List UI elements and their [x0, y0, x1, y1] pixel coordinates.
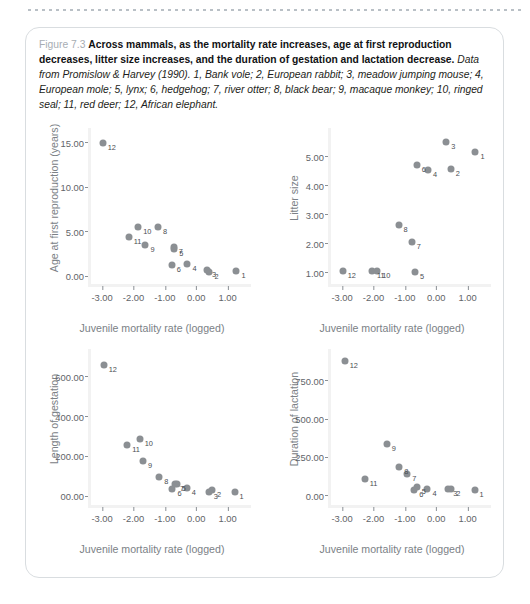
top-dotted-rule [28, 9, 522, 11]
data-point [139, 457, 146, 464]
data-point-label: 3 [451, 142, 455, 151]
x-axis-tick-label: 0.00 [187, 292, 205, 303]
data-point-label: 9 [148, 460, 152, 469]
x-axis-tick-label: 1.00 [218, 513, 236, 524]
data-point [136, 436, 143, 443]
y-axis-tick-label: 1.00 [306, 267, 324, 278]
y-axis-line [328, 128, 331, 284]
y-axis-tick-label: 10.00 [61, 182, 84, 193]
data-point-label: 7 [417, 241, 421, 250]
data-point-label: 3 [453, 488, 457, 497]
plot-grid: Age at first reproduction (years) 0.005.… [26, 124, 503, 576]
data-point [124, 441, 131, 448]
y-axis-tick-label: 4.00 [306, 180, 324, 191]
data-point [99, 139, 106, 146]
data-point [413, 161, 420, 168]
x-axis-tick-label: -2.00 [363, 292, 384, 303]
data-point-label: 8 [163, 226, 167, 235]
data-point-label: 11 [370, 478, 378, 487]
data-point-label: 12 [109, 364, 117, 373]
y-axis-tick-label: 600.00 [55, 371, 84, 382]
plot-area: 0.00250.00500.00750.00-3.00-2.00-1.000.0… [328, 353, 488, 505]
panel-litter-size: Litter size 1.002.003.004.005.00-3.00-2.… [266, 124, 504, 350]
data-point [142, 241, 149, 248]
x-axis-tick-label: -2.00 [123, 292, 144, 303]
data-point-label: 7 [412, 473, 416, 482]
data-point [408, 238, 415, 245]
x-axis-line [88, 284, 251, 287]
y-axis-tick-label: 250.00 [295, 452, 324, 463]
data-point [171, 481, 178, 488]
data-point-label: 9 [392, 443, 396, 452]
data-point [168, 261, 175, 268]
x-axis-tick-label: 0.00 [187, 513, 205, 524]
data-point-label: 6 [422, 164, 426, 173]
plot-area: 1.002.003.004.005.00-3.00-2.00-1.000.001… [328, 132, 488, 284]
data-point [396, 464, 403, 471]
y-axis-title: Litter size [288, 108, 300, 288]
y-axis-tick-label: 2.00 [306, 238, 324, 249]
data-point-label: 3 [214, 492, 218, 501]
data-point-label: 4 [192, 264, 196, 273]
data-point [135, 224, 142, 231]
data-point [125, 234, 132, 241]
data-point-label: 8 [404, 225, 408, 234]
data-point [154, 223, 161, 230]
data-point [395, 222, 402, 229]
data-point [447, 165, 454, 172]
x-axis-tick-label: -3.00 [91, 292, 112, 303]
data-point-label: 11 [377, 270, 385, 279]
data-point-label: 8 [404, 467, 408, 476]
data-point-label: 1 [480, 489, 484, 498]
data-point-label: 10 [143, 227, 151, 236]
y-axis-tick-label: 0.00 [66, 271, 84, 282]
y-axis-title: Age at first reproduction (years) [48, 108, 60, 288]
figure-headline: Across mammals, as the mortality rate in… [39, 39, 454, 65]
data-point-label: 7 [180, 484, 184, 493]
y-axis-tick-label: 500.00 [295, 414, 324, 425]
data-point [443, 139, 450, 146]
data-point [100, 361, 107, 368]
panel-length-of-gestation: Length of gestation 00.00200.00400.00600… [26, 345, 264, 571]
y-axis-tick-label: 15.00 [61, 137, 84, 148]
data-point [205, 489, 212, 496]
data-point-label: 5 [420, 271, 424, 280]
x-axis-tick-label: -1.00 [394, 513, 415, 524]
data-point-label: 2 [456, 168, 460, 177]
data-point-label: 11 [132, 444, 140, 453]
y-axis-tick-label: 200.00 [55, 451, 84, 462]
x-axis-tick-label: 0.00 [427, 513, 445, 524]
figure-container: Figure 7.3 Across mammals, as the mortal… [25, 27, 504, 578]
data-point-label: 4 [433, 169, 437, 178]
x-axis-line [328, 284, 491, 287]
x-axis-tick-label: -3.00 [331, 292, 352, 303]
x-axis-line [88, 505, 251, 508]
data-point [341, 357, 348, 364]
data-point-label: 7 [179, 247, 183, 256]
x-axis-tick-label: 1.00 [458, 292, 476, 303]
figure-number: Figure 7.3 [39, 39, 85, 50]
x-axis-tick-label: -1.00 [154, 513, 175, 524]
data-point-label: 12 [350, 360, 358, 369]
data-point [472, 149, 479, 156]
x-axis-title: Juvenile mortality rate (logged) [44, 322, 260, 334]
data-point-label: 12 [348, 270, 356, 279]
y-axis-line [88, 349, 91, 505]
figure-caption: Figure 7.3 Across mammals, as the mortal… [39, 37, 491, 112]
y-axis-line [328, 349, 331, 505]
data-point-label: 4 [432, 489, 436, 498]
x-axis-tick-label: -1.00 [154, 292, 175, 303]
data-point [361, 475, 368, 482]
x-axis-line [328, 505, 491, 508]
y-axis-tick-label: 750.00 [295, 375, 324, 386]
x-axis-title: Juvenile mortality rate (logged) [284, 322, 500, 334]
panel-duration-of-lactation: Duration of lactation 0.00250.00500.0075… [266, 345, 504, 571]
data-point-label: 1 [240, 492, 244, 501]
data-point [170, 244, 177, 251]
y-axis-tick-label: 3.00 [306, 209, 324, 220]
x-axis-tick-label: -1.00 [394, 292, 415, 303]
data-point-label: 8 [164, 476, 168, 485]
data-point-label: 1 [480, 152, 484, 161]
data-point [156, 473, 163, 480]
data-point [231, 489, 238, 496]
